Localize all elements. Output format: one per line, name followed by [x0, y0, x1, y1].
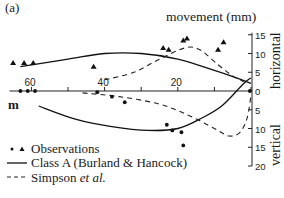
vertical-tick-label: 20 — [255, 161, 266, 172]
horizontal-tick-label: 10 — [255, 49, 266, 60]
observation-horizontal-triangle — [91, 64, 97, 69]
observation-vertical-dot — [181, 143, 185, 147]
observation-vertical-dot — [123, 100, 127, 104]
horizontal-tick-label: 0 — [255, 86, 260, 97]
horizontal-axis-label: horizontal — [268, 32, 283, 89]
x-axis-label: m — [8, 97, 19, 112]
observation-vertical-dot — [33, 89, 37, 93]
observation-vertical-dot — [95, 90, 99, 94]
vertical-tick-label: 5 — [255, 105, 260, 116]
x-tick-label: 60 — [24, 77, 36, 88]
observation-horizontal-triangle — [21, 60, 27, 65]
chart-title: movement (mm) — [166, 9, 256, 24]
observation-horizontal-triangle — [221, 39, 227, 44]
observation-horizontal-triangle — [160, 45, 166, 50]
class-a-horizontal-curve — [20, 53, 251, 84]
vertical-tick-label: 10 — [255, 124, 266, 135]
legend-label-simpson: Simpson et al. — [31, 170, 106, 185]
observation-vertical-dot — [19, 89, 23, 93]
legend-triangle-marker — [20, 147, 25, 152]
observation-horizontal-triangle — [10, 60, 16, 65]
x-tick-label: 20 — [171, 77, 183, 88]
legend-dot-marker — [11, 148, 14, 151]
horizontal-tick-label: 5 — [255, 67, 260, 78]
observation-vertical-dot — [170, 128, 174, 132]
horizontal-tick-label: 15 — [255, 30, 266, 41]
legend-label-simpson-main: Simpson — [31, 170, 80, 185]
legend: Observations Class A (Burland & Hancock)… — [7, 141, 187, 185]
legend-label-observations: Observations — [31, 141, 100, 156]
observation-vertical-dot — [165, 123, 169, 127]
curves — [20, 47, 251, 136]
observation-vertical-dot — [26, 89, 30, 93]
observation-vertical-dot — [248, 89, 252, 93]
legend-label-simpson-etal: et al. — [80, 170, 106, 185]
class-a-vertical-curve — [39, 78, 251, 131]
ground-movement-chart: (a) movement (mm) m 604020 0510155101520… — [0, 0, 284, 198]
observation-vertical-dot — [110, 95, 114, 99]
x-ticks: 604020 — [24, 77, 251, 91]
panel-label: (a) — [5, 0, 19, 15]
legend-label-class-a: Class A (Burland & Hancock) — [31, 155, 187, 170]
vertical-tick-label: 15 — [255, 142, 266, 153]
observation-vertical-dot — [180, 130, 184, 134]
observation-horizontal-triangle — [30, 60, 36, 65]
vertical-axis-label: vertical — [268, 124, 283, 166]
observation-horizontal-triangle — [215, 47, 221, 52]
observation-horizontal-triangle — [184, 36, 190, 41]
observation-horizontal-triangle — [166, 47, 172, 52]
